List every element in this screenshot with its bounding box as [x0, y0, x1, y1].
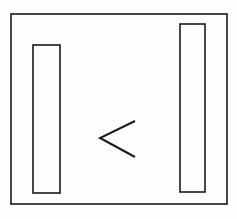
outer-frame	[11, 14, 227, 204]
drawing-canvas: A large open rectangular frame containin…	[0, 0, 237, 219]
chevron-left-mark	[100, 121, 135, 157]
left-vertical-bar	[33, 45, 60, 193]
right-vertical-bar	[180, 24, 205, 192]
figure-svg	[0, 0, 237, 219]
